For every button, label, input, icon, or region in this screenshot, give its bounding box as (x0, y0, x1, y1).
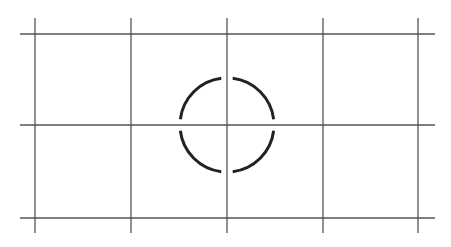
circle-arc-segment-3 (180, 78, 221, 119)
circle-arc-segment-1 (233, 131, 274, 172)
diagram-canvas (0, 0, 451, 247)
circle-arc-segment-4 (233, 78, 274, 119)
grid-lines (20, 18, 435, 233)
circle-arc-segment-2 (180, 131, 221, 172)
